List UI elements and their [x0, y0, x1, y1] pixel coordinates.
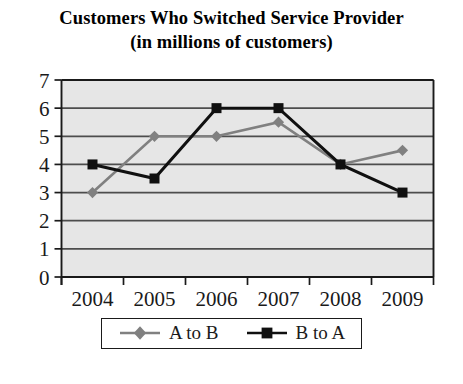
legend-container: A to B B to A [0, 318, 463, 368]
legend-box: A to B B to A [101, 318, 362, 349]
svg-text:1: 1 [39, 237, 50, 261]
svg-text:2009: 2009 [382, 287, 424, 311]
svg-text:2004: 2004 [72, 287, 115, 311]
svg-text:6: 6 [39, 97, 50, 121]
legend-label-a-to-b: A to B [169, 323, 219, 343]
svg-text:0: 0 [39, 266, 50, 290]
y-axis-ticks [55, 80, 62, 277]
legend-item-b-to-a: B to A [245, 323, 346, 343]
svg-text:2: 2 [39, 209, 50, 233]
legend-label-b-to-a: B to A [296, 323, 346, 343]
square-marker-icon [245, 324, 289, 342]
svg-text:2006: 2006 [196, 287, 238, 311]
svg-text:2007: 2007 [258, 287, 300, 311]
legend-item-a-to-b: A to B [118, 323, 219, 343]
chart-title: Customers Who Switched Service Provider … [0, 6, 463, 54]
svg-text:7: 7 [39, 69, 50, 93]
diamond-marker-icon [118, 324, 162, 342]
y-axis-tick-labels: 01234567 [39, 69, 50, 290]
svg-text:2005: 2005 [134, 287, 176, 311]
svg-text:5: 5 [39, 125, 50, 149]
x-axis-ticks [62, 277, 434, 285]
x-axis-tick-labels: 200420052006200720082009 [72, 287, 424, 311]
line-chart-svg: 01234567 200420052006200720082009 [0, 62, 463, 312]
svg-text:3: 3 [39, 181, 50, 205]
svg-text:2008: 2008 [320, 287, 362, 311]
chart-title-line-1: Customers Who Switched Service Provider [0, 6, 463, 30]
svg-text:4: 4 [39, 153, 50, 177]
plot-area-container: 01234567 200420052006200720082009 [0, 62, 463, 312]
chart-figure: Customers Who Switched Service Provider … [0, 0, 463, 384]
chart-title-line-2: (in millions of customers) [0, 30, 463, 54]
